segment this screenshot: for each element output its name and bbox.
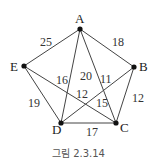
vertex-A — [77, 26, 82, 31]
weight-A-C-20: 20 — [80, 69, 92, 83]
weight-E-C: 12 — [76, 87, 88, 101]
vertex-label-A: A — [75, 11, 85, 26]
vertex-label-D: D — [52, 122, 61, 137]
vertex-label-E: E — [10, 59, 18, 74]
weight-B-D: 15 — [96, 96, 108, 110]
weight-C-D: 17 — [86, 125, 98, 139]
weight-A-C-11: 11 — [100, 72, 112, 86]
edge-A-B — [80, 29, 134, 67]
weight-B-C: 12 — [132, 91, 144, 105]
vertex-label-C: C — [120, 120, 129, 135]
edge-A-E — [24, 29, 80, 66]
vertex-E — [21, 63, 26, 68]
vertex-B — [131, 64, 136, 69]
figure-caption: 그림 2.3.14 — [52, 148, 105, 159]
weight-A-B: 18 — [112, 35, 124, 49]
vertex-C — [113, 120, 118, 125]
weight-A-E: 25 — [40, 35, 52, 49]
vertex-label-B: B — [139, 59, 148, 74]
weight-D-E: 19 — [28, 96, 40, 110]
graph-diagram: A B C D E 25 18 12 17 19 16 11 20 12 15 … — [0, 0, 154, 168]
weight-A-D: 16 — [56, 73, 68, 87]
